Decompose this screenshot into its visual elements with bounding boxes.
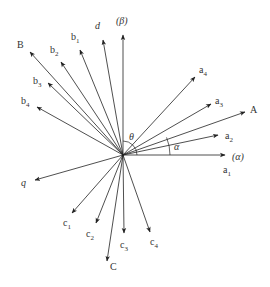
vector-c2-label: c2 xyxy=(86,228,94,242)
angle-alpha-label: α xyxy=(174,141,180,152)
vector-c4-label: c4 xyxy=(150,236,158,250)
vector-c2-arrow xyxy=(96,155,123,223)
vector-d-label: d xyxy=(95,20,101,31)
vector-a4-arrow xyxy=(123,77,195,155)
vector-c1-label: c1 xyxy=(63,217,71,231)
vector-b2-arrow xyxy=(61,62,123,155)
vector-q-label: q xyxy=(21,177,26,188)
vector-A-label: A xyxy=(250,104,258,115)
vector-b1-arrow xyxy=(80,50,123,155)
vector-b3-label: b3 xyxy=(33,75,42,89)
vector-diagram: (β)db1b2Bb3b4qc1c2Cc3c4(α)a2Aa3a4a1θα xyxy=(0,0,270,287)
vector-b4-label: b4 xyxy=(21,95,30,109)
vector-a4-label: a4 xyxy=(199,64,207,78)
vector-C-label: C xyxy=(110,261,117,272)
vector-beta-label: (β) xyxy=(116,15,128,27)
vector-B-label: B xyxy=(17,39,24,50)
vector-B-arrow xyxy=(30,52,123,155)
vector-q-arrow xyxy=(35,155,123,180)
vector-c3-label: c3 xyxy=(120,239,128,253)
vector-alpha-label: (α) xyxy=(232,151,245,163)
vector-a3-label: a3 xyxy=(215,95,223,109)
vector-c4-arrow xyxy=(123,155,150,232)
vector-labels: (β)db1b2Bb3b4qc1c2Cc3c4(α)a2Aa3a4a1θα xyxy=(17,15,258,272)
vector-d-arrow xyxy=(103,40,123,155)
vector-c3-arrow xyxy=(123,155,124,233)
vector-a2-label: a2 xyxy=(225,130,233,144)
angle-alpha-arc xyxy=(167,137,170,155)
vector-a3-arrow xyxy=(123,104,211,155)
vector-b2-label: b2 xyxy=(50,44,59,58)
angle-theta-label: θ xyxy=(129,131,134,142)
vector-a1-label: a1 xyxy=(223,164,231,178)
vector-b1-label: b1 xyxy=(71,31,80,45)
